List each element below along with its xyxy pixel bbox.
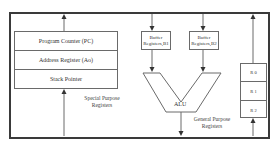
- buffer-register-b2: Buffer Registers,B2: [189, 31, 219, 50]
- stack-pointer-register: Stack Pointer: [15, 70, 117, 88]
- special-purpose-label-line1: Special Purpose: [80, 95, 124, 102]
- general-purpose-register-stack: R 0 R 1 R 2: [240, 63, 267, 118]
- arrow-up-icon: [251, 14, 256, 19]
- alu-label: ALU: [174, 101, 186, 107]
- buffer-b2-line2: Registers,B2: [191, 41, 217, 47]
- register-r2: R 2: [241, 101, 266, 119]
- special-purpose-label-line2: Registers: [80, 102, 124, 109]
- buffer-register-b1: Buffer Registers,B1: [141, 31, 171, 50]
- arrow-up-icon: [62, 89, 67, 94]
- register-r0: R 0: [241, 64, 266, 82]
- buffer-b1-line2: Registers,B1: [143, 41, 169, 47]
- general-purpose-label: General Purpose Registers: [187, 116, 237, 130]
- special-purpose-register-stack: Program Counter (PC) Address Register (A…: [14, 31, 118, 89]
- general-purpose-label-line2: Registers: [187, 123, 237, 130]
- special-purpose-label: Special Purpose Registers: [80, 95, 124, 109]
- address-register: Address Register (Ao): [15, 51, 117, 70]
- arrow-down-icon: [179, 131, 184, 136]
- arrow-up-icon: [62, 14, 67, 19]
- general-purpose-label-line1: General Purpose: [187, 116, 237, 123]
- arrow-down-icon: [150, 67, 155, 72]
- arrow-down-icon: [201, 67, 206, 72]
- program-counter-register: Program Counter (PC): [15, 32, 117, 51]
- register-r1: R 1: [241, 82, 266, 101]
